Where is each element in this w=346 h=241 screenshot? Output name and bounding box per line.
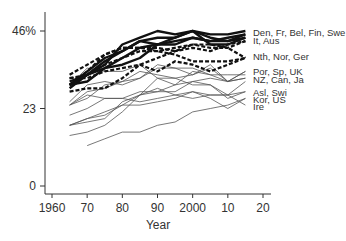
y-tick-label: 23 <box>23 102 37 116</box>
y-tick-label: 0 <box>29 179 36 193</box>
y-axis-ticks: 02346% <box>12 24 45 193</box>
x-tick-label: 80 <box>116 201 130 215</box>
group-label: It, Aus <box>253 35 280 46</box>
series-line-kor <box>87 98 245 145</box>
x-axis-ticks: 196070809020001020 <box>39 194 270 215</box>
group-labels: Den, Fr, Bel, Fin, SweIt, AusNth, Nor, G… <box>253 27 345 112</box>
series-line-it <box>70 41 246 92</box>
series-lines <box>70 31 246 146</box>
x-tick-label: 70 <box>80 201 94 215</box>
x-tick-label: 2000 <box>179 201 206 215</box>
group-label: NZ, Can, Ja <box>253 74 304 85</box>
y-tick-label: 46% <box>12 24 36 38</box>
series-line-us <box>70 92 246 109</box>
chart-svg: 02346% 196070809020001020 Den, Fr, Bel, … <box>0 0 346 241</box>
x-tick-label: 10 <box>221 201 235 215</box>
x-tick-label: 20 <box>256 201 270 215</box>
group-label: Nth, Nor, Ger <box>253 51 309 62</box>
group-label: Ire <box>253 101 264 112</box>
line-chart: 02346% 196070809020001020 Den, Fr, Bel, … <box>0 0 346 241</box>
x-axis-title: Year <box>146 218 170 232</box>
x-tick-label: 90 <box>151 201 165 215</box>
x-tick-label: 1960 <box>39 201 66 215</box>
